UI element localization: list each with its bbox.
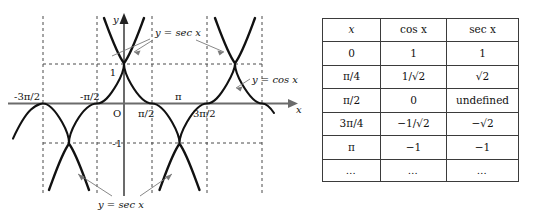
table-row: π/2 0 undefined [323, 89, 519, 112]
cell-sec-2: undefined [447, 89, 519, 112]
cell-cos-4: −1 [381, 136, 447, 159]
ytick-label-neg1: -1 [112, 138, 122, 149]
table-row: π −1 −1 [323, 136, 519, 159]
figure-and-table-panel: x y O -3π/2 -π/2 π/2 π 3π/2 1 -1 y = sec… [0, 0, 538, 220]
table-row: 3π/4 −1/√2 −√2 [323, 112, 519, 135]
arrowhead-sec-bottom-right [166, 174, 173, 181]
annotation-leaders [78, 39, 250, 196]
secant-branch-left-down [49, 144, 89, 190]
cell-cos-2: 0 [381, 89, 447, 112]
ytick-label-1: 1 [110, 67, 116, 78]
asymptote-group [43, 16, 262, 196]
xtick-label-3pi-2: 3π/2 [193, 108, 216, 119]
xtick-label-neg-3pi-2: -3π/2 [14, 91, 40, 102]
secant-branch-mid-down [160, 144, 200, 190]
origin-label: O [113, 108, 121, 119]
leader-sec-top-far-left [112, 39, 150, 56]
cell-cos-0: 1 [381, 42, 447, 65]
y-axis-arrow [120, 13, 129, 24]
xtick-label-pi: π [175, 91, 182, 102]
cell-x-0: 0 [323, 42, 381, 65]
xtick-label-neg-pi-2: -π/2 [80, 91, 100, 102]
cell-cos-1: 1/√2 [381, 65, 447, 88]
table-header-row: x cos x sec x [323, 19, 519, 42]
cell-sec-3: −√2 [447, 112, 519, 135]
cell-x-5: … [323, 159, 381, 181]
cell-x-2: π/2 [323, 89, 381, 112]
cell-sec-0: 1 [447, 42, 519, 65]
annotation-sec-bottom: y = sec x [97, 199, 144, 210]
header-sec-text: sec x [469, 23, 496, 35]
values-table-container: x cos x sec x 0 1 1 π/4 1/√2 √2 [322, 18, 518, 182]
cell-x-1: π/4 [323, 65, 381, 88]
cell-cos-3: −1/√2 [381, 112, 447, 135]
leader-sec-top-right [196, 40, 224, 52]
x-axis-label: x [296, 104, 302, 115]
table-row: π/4 1/√2 √2 [323, 65, 519, 88]
annotation-sec-top: y = sec x [154, 27, 201, 38]
cell-x-3: 3π/4 [323, 112, 381, 135]
cell-sec-5: … [447, 159, 519, 181]
header-cell-sec: sec x [447, 19, 519, 42]
header-cell-x: x [323, 19, 381, 42]
cell-cos-5: … [381, 159, 447, 181]
graph-figure: x y O -3π/2 -π/2 π/2 π 3π/2 1 -1 y = sec… [0, 0, 310, 220]
cell-x-4: π [323, 136, 381, 159]
xtick-label-pi-2: π/2 [138, 108, 154, 119]
y-axis-label: y [112, 14, 119, 25]
cell-sec-1: √2 [447, 65, 519, 88]
table-row: 0 1 1 [323, 42, 519, 65]
cell-sec-4: −1 [447, 136, 519, 159]
cos-sec-values-table: x cos x sec x 0 1 1 π/4 1/√2 √2 [322, 18, 519, 182]
header-cos-text: cos x [400, 23, 427, 35]
secant-branch-right-up [215, 18, 255, 63]
header-cell-cos: cos x [381, 19, 447, 42]
table-row: … … … [323, 159, 519, 181]
annotation-cos-right: y = cos x [251, 74, 298, 85]
